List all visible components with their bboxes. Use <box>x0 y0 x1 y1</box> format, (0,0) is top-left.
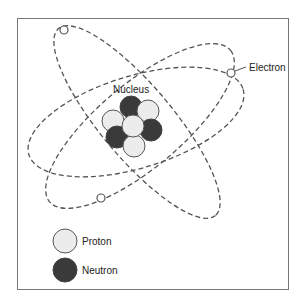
atom-diagram: Electron Nucleus Proton Neutron <box>0 0 306 305</box>
legend-neutron-label: Neutron <box>82 265 118 276</box>
proton-particle <box>123 135 145 157</box>
electron-icon <box>97 194 105 202</box>
electron-label: Electron <box>249 62 286 73</box>
electron-leader-line <box>235 67 246 71</box>
proton-particle <box>122 115 144 137</box>
electron-icon <box>227 69 235 77</box>
electron-icon <box>60 26 68 34</box>
legend: Proton Neutron <box>53 229 118 282</box>
nucleus-label: Nucleus <box>113 84 149 95</box>
legend-neutron-swatch <box>53 258 77 282</box>
legend-proton-label: Proton <box>82 236 111 247</box>
legend-proton-swatch <box>53 229 77 253</box>
